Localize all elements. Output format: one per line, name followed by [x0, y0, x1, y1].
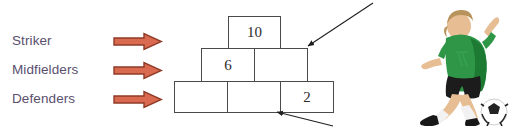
diagram-canvas: Striker Midfielders Defenders 10 6	[0, 0, 517, 128]
pointer-to-bottom-middle-cell-icon	[277, 112, 333, 126]
soccer-player-photo	[404, 2, 514, 126]
pointer-to-middle-right-cell-icon	[308, 3, 373, 46]
